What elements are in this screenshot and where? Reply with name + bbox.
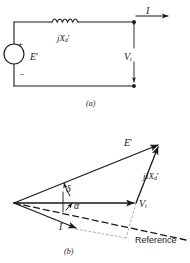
label-emf-prime: ′ [36, 51, 38, 62]
label-reactance-prime: ′ [68, 33, 70, 43]
phasor-i [14, 203, 76, 228]
label-reference-axis: Reference [135, 236, 177, 245]
figure-graphics [0, 0, 190, 263]
label-emf-phasor-prime: ′ [130, 137, 132, 148]
label-vt-subscript: t [130, 55, 132, 62]
label-current-phasor: I [59, 222, 62, 232]
angle-arc-alpha [66, 203, 72, 210]
label-reactance-drop: jIXd′ [143, 172, 159, 182]
label-emf-phasor: E′ [124, 138, 132, 148]
label-current-angle-alpha: α [74, 201, 79, 211]
label-vt-phasor-subscript: t [145, 202, 147, 209]
circuit-schematic [4, 16, 168, 88]
label-reactance-symbol: jX [57, 33, 65, 43]
inductor-coil [52, 19, 78, 22]
label-polarity-minus: − [19, 70, 24, 79]
label-reactance: jXd′ [57, 34, 70, 44]
figure-container: I jXd′ E′ + − Vt (a) E′ jIXd′ δ α Vt I R… [0, 0, 190, 263]
label-reactance-drop-symbol: jIX [143, 171, 154, 181]
phasor-e-prime [14, 145, 158, 203]
label-current-circuit: I [146, 6, 149, 16]
terminal-dot-top [132, 20, 136, 24]
phasor-diagram-graphics [14, 145, 186, 240]
construction-line-i [76, 229, 126, 238]
panel-caption-a: (a) [86, 100, 95, 108]
label-polarity-plus: + [18, 40, 23, 49]
label-reactance-drop-prime: ′ [157, 171, 159, 181]
panel-caption-b: (b) [64, 248, 73, 256]
label-emf-circuit: E′ [30, 52, 38, 62]
label-power-angle-delta: δ [66, 184, 71, 194]
construction-line-vt [126, 203, 136, 238]
label-terminal-voltage-circuit: Vt [124, 52, 132, 63]
label-terminal-voltage-phasor: Vt [139, 199, 147, 210]
terminal-dot-bottom [132, 84, 136, 88]
